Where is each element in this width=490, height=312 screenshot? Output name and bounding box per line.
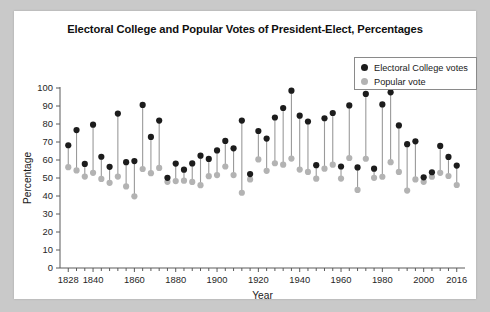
data-point-popular <box>280 162 286 168</box>
data-point-electoral <box>272 114 278 120</box>
x-tick-label: 2016 <box>446 274 467 285</box>
chart-legend: Electoral College votes Popular vote <box>354 57 477 90</box>
y-tick-label: 90 <box>43 100 53 111</box>
data-point-popular <box>197 182 203 188</box>
data-point-popular <box>396 169 402 175</box>
data-point-popular <box>65 164 71 170</box>
x-tick-label: 1840 <box>83 274 104 285</box>
y-tick-label: 70 <box>43 136 53 147</box>
chart-card: Electoral College and Popular Votes of P… <box>14 11 476 299</box>
data-point-electoral <box>321 115 327 121</box>
data-point-popular <box>239 190 245 196</box>
data-point-popular <box>272 160 278 166</box>
data-point-popular <box>454 182 460 188</box>
data-point-electoral <box>346 102 352 108</box>
data-point-electoral <box>230 145 236 151</box>
data-point-electoral <box>396 122 402 128</box>
y-tick-label: 40 <box>43 190 53 201</box>
data-point-popular <box>445 173 451 179</box>
x-tick-label: 1828 <box>58 274 79 285</box>
data-point-popular <box>115 173 121 179</box>
data-point-popular <box>206 173 212 179</box>
data-point-electoral <box>371 166 377 172</box>
x-tick-label: 1920 <box>248 274 269 285</box>
data-point-popular <box>214 172 220 178</box>
data-point-popular <box>288 155 294 161</box>
data-point-electoral <box>338 163 344 169</box>
data-point-popular <box>140 166 146 172</box>
data-point-electoral <box>173 161 179 167</box>
data-point-popular <box>404 188 410 194</box>
data-point-electoral <box>280 105 286 111</box>
x-tick-label: 1880 <box>165 274 186 285</box>
legend-label-electoral: Electoral College votes <box>374 63 468 73</box>
data-point-electoral <box>189 160 195 166</box>
data-point-electoral <box>214 147 220 153</box>
data-point-electoral <box>82 161 88 167</box>
data-point-popular <box>73 167 79 173</box>
data-point-electoral <box>140 102 146 108</box>
data-point-electoral <box>330 110 336 116</box>
y-tick-label: 60 <box>43 154 53 165</box>
data-point-popular <box>173 178 179 184</box>
x-tick-label: 1860 <box>124 274 145 285</box>
data-point-electoral <box>206 156 212 162</box>
y-tick-label: 80 <box>43 118 53 129</box>
data-point-electoral <box>181 167 187 173</box>
data-point-popular <box>98 176 104 182</box>
data-point-electoral <box>131 158 137 164</box>
y-tick-label: 0 <box>48 262 53 273</box>
legend-item-popular-vote: Popular vote <box>361 75 471 88</box>
y-tick-label: 50 <box>43 172 53 183</box>
data-point-popular <box>313 176 319 182</box>
data-point-popular <box>371 175 377 181</box>
data-point-popular <box>346 155 352 161</box>
data-point-electoral <box>115 110 121 116</box>
y-axis-title: Percentage <box>22 152 33 204</box>
data-point-electoral <box>429 169 435 175</box>
data-point-electoral <box>156 117 162 123</box>
data-point-popular <box>388 159 394 165</box>
data-point-electoral <box>313 162 319 168</box>
x-tick-label: 1980 <box>372 274 393 285</box>
data-point-electoral <box>73 127 79 133</box>
data-point-popular <box>222 163 228 169</box>
legend-label-popular: Popular vote <box>374 77 426 87</box>
data-point-popular <box>363 156 369 162</box>
data-point-electoral <box>421 174 427 180</box>
data-point-electoral <box>379 101 385 107</box>
data-point-electoral <box>239 117 245 123</box>
y-tick-label: 30 <box>43 208 53 219</box>
data-point-popular <box>131 193 137 199</box>
data-point-electoral <box>222 138 228 144</box>
data-point-popular <box>82 173 88 179</box>
x-tick-label: 1940 <box>289 274 310 285</box>
data-point-popular <box>181 178 187 184</box>
x-axis-title: Year <box>252 290 273 299</box>
data-point-electoral <box>123 159 129 165</box>
y-tick-label: 20 <box>43 226 53 237</box>
data-point-popular <box>230 172 236 178</box>
data-point-popular <box>321 166 327 172</box>
data-point-electoral <box>412 138 418 144</box>
data-point-electoral <box>437 143 443 149</box>
data-point-popular <box>255 156 261 162</box>
data-point-popular <box>156 165 162 171</box>
legend-dot-icon-popular <box>361 78 368 85</box>
legend-dot-icon-electoral <box>361 64 368 71</box>
data-point-popular <box>412 176 418 182</box>
x-tick-label: 1960 <box>331 274 352 285</box>
data-point-electoral <box>247 171 253 177</box>
data-point-electoral <box>288 88 294 94</box>
chart-plot-area: 0102030405060708090100Percentage18281840… <box>14 11 476 299</box>
data-point-electoral <box>65 142 71 148</box>
data-point-popular <box>354 187 360 193</box>
data-point-popular <box>189 179 195 185</box>
data-point-electoral <box>106 164 112 170</box>
data-point-electoral <box>363 91 369 97</box>
data-point-electoral <box>98 154 104 160</box>
data-point-popular <box>106 180 112 186</box>
data-point-electoral <box>264 135 270 141</box>
data-point-electoral <box>197 153 203 159</box>
data-point-electoral <box>388 89 394 95</box>
